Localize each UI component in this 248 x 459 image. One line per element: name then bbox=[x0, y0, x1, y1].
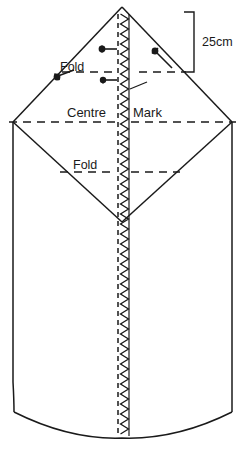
diagram-canvas: Fold Centre Mark Fold 25cm bbox=[0, 0, 248, 459]
dimension-bracket-25cm bbox=[184, 12, 194, 72]
leader-line-seam bbox=[130, 82, 147, 89]
mark-label: Mark bbox=[133, 105, 162, 120]
garment-body-outline bbox=[13, 122, 232, 438]
garment-fold-diagram: Fold Centre Mark Fold 25cm bbox=[0, 0, 248, 459]
centre-seam-group bbox=[118, 14, 129, 436]
fold-label-lower: Fold bbox=[73, 158, 97, 172]
dimension-label-25cm: 25cm bbox=[202, 35, 233, 49]
zigzag-stitch-icon bbox=[121, 14, 129, 434]
fold-label-upper: Fold bbox=[60, 60, 84, 74]
pin-icon-right-edge bbox=[152, 48, 172, 68]
pin-icon-middle-left bbox=[100, 77, 117, 84]
pin-icon-upper-left bbox=[99, 46, 117, 53]
centre-label: Centre bbox=[67, 105, 106, 120]
left-side-edge bbox=[13, 122, 14, 412]
